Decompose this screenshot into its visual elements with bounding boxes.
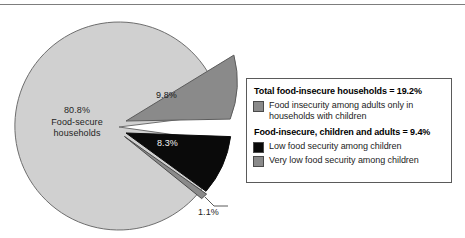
pie-label-food-secure-percent: 80.8%: [64, 105, 90, 115]
legend-label-adults-only-line2: households with children: [269, 111, 366, 121]
pie-label-low-food-security-percent: 8.3%: [157, 138, 178, 150]
pie-label-food-secure-line2: Food-secure: [51, 117, 103, 127]
legend-swatch-very-low-food-security: [253, 156, 264, 167]
pie-label-food-secure: 80.8% Food-secure households: [34, 105, 120, 140]
legend-label-very-low-food-security: Very low food security among children: [269, 155, 419, 166]
pie-label-food-secure-line3: households: [53, 128, 100, 138]
pie-label-very-low-food-security-percent: 1.1%: [198, 207, 219, 219]
legend-label-adults-only-line1: Food insecurity among adults only in: [269, 100, 413, 110]
legend-item-adults-only: Food insecurity among adults only in hou…: [253, 100, 445, 122]
leader-line-sliver: [205, 197, 228, 206]
legend-label-low-food-security: Low food security among children: [269, 141, 401, 152]
chart-legend: Total food-insecure households = 19.2% F…: [246, 78, 452, 183]
legend-label-adults-only: Food insecurity among adults only in hou…: [269, 100, 413, 122]
legend-item-very-low-food-security: Very low food security among children: [253, 155, 445, 167]
legend-swatch-adults-only: [253, 101, 264, 112]
legend-header-total-food-insecure: Total food-insecure households = 19.2%: [254, 85, 445, 97]
legend-swatch-low-food-security: [253, 142, 264, 153]
pie-label-adults-only-percent: 9.8%: [156, 90, 177, 102]
pie-chart-figure: 80.8% Food-secure households 9.8% 8.3% 1…: [0, 0, 465, 238]
legend-header-children-and-adults: Food-insecure, children and adults = 9.4…: [254, 126, 445, 138]
legend-item-low-food-security: Low food security among children: [253, 141, 445, 153]
